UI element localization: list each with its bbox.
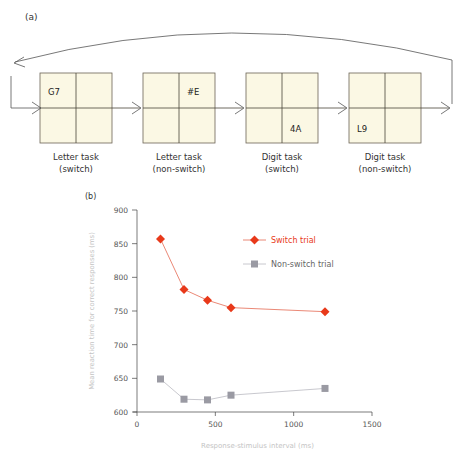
- square-marker-icon: [157, 376, 164, 383]
- y-tick-label: 650: [114, 374, 129, 383]
- task-box: #ELetter task(non-switch): [143, 73, 244, 174]
- square-marker-icon: [181, 396, 188, 403]
- switch-trial-series: [156, 234, 330, 316]
- non-switch-trial-series: [157, 376, 329, 404]
- x-tick-label: 1000: [284, 420, 303, 429]
- y-axis-label: Mean reaction time for correct responses…: [88, 232, 96, 390]
- legend-label: Non-switch trial: [271, 260, 334, 269]
- task-box: G7Letter task(switch): [40, 73, 141, 174]
- square-marker-icon: [228, 392, 235, 399]
- stimulus-text: 4A: [290, 124, 301, 134]
- task-caption-sub: (switch): [265, 164, 299, 174]
- entry-arrow: [11, 76, 40, 108]
- task-caption-sub: (non-switch): [359, 164, 412, 174]
- y-tick-label: 800: [114, 273, 129, 282]
- x-tick-label: 500: [208, 420, 223, 429]
- task-box: 4ADigit task(switch): [246, 73, 347, 174]
- diamond-marker-icon: [321, 307, 330, 316]
- task-sequence: G7Letter task(switch)#ELetter task(non-s…: [32, 73, 450, 174]
- reaction-time-chart: 600650700750800850900050010001500Respons…: [88, 206, 382, 450]
- y-tick-label: 700: [114, 341, 129, 350]
- x-tick-label: 1500: [362, 420, 381, 429]
- x-axis-label: Response-stimulus interval (ms): [201, 442, 314, 450]
- square-marker-icon: [322, 385, 329, 392]
- diamond-marker-icon: [227, 303, 236, 312]
- task-caption: Letter task: [53, 152, 99, 162]
- y-tick-label: 750: [114, 307, 129, 316]
- stimulus-text: L9: [357, 124, 367, 134]
- y-tick-label: 850: [114, 240, 129, 249]
- task-caption: Digit task: [262, 152, 303, 162]
- figure: (a) G7Letter task(switch)#ELetter task(n…: [0, 0, 467, 458]
- panel-a-label: (a): [25, 12, 38, 22]
- square-marker-icon: [204, 396, 211, 403]
- diamond-marker-icon: [180, 285, 189, 294]
- task-caption-sub: (switch): [59, 164, 93, 174]
- legend-label: Switch trial: [271, 236, 316, 245]
- task-caption: Digit task: [365, 152, 406, 162]
- x-tick-label: 0: [135, 420, 140, 429]
- task-caption-sub: (non-switch): [153, 164, 206, 174]
- y-tick-label: 600: [114, 408, 129, 417]
- legend: Switch trialNon-switch trial: [243, 236, 334, 270]
- diamond-marker-icon: [250, 236, 259, 245]
- task-box: L9Digit task(non-switch): [349, 73, 450, 174]
- stimulus-text: #E: [187, 87, 200, 97]
- diamond-marker-icon: [156, 234, 165, 243]
- square-marker-icon: [251, 261, 258, 268]
- panel-b-label: (b): [85, 192, 96, 201]
- diamond-marker-icon: [203, 296, 212, 305]
- task-caption: Letter task: [156, 152, 202, 162]
- y-tick-label: 900: [114, 206, 129, 215]
- loop-arrowhead-icon: [14, 57, 25, 67]
- stimulus-text: G7: [48, 87, 60, 97]
